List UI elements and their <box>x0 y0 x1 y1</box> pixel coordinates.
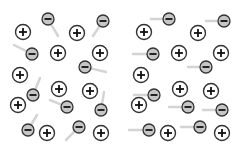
electron <box>42 13 54 25</box>
positive-ion <box>214 46 229 61</box>
electron <box>148 89 160 101</box>
positive-ion <box>83 84 98 99</box>
electron <box>97 15 109 27</box>
panel-random-motion <box>0 0 121 154</box>
positive-ion <box>172 46 187 61</box>
motion-arrow <box>93 27 99 36</box>
electron <box>200 61 212 73</box>
positive-ion <box>70 26 85 41</box>
electron <box>147 48 159 60</box>
electron <box>27 89 39 101</box>
positive-ion <box>161 126 176 141</box>
electron <box>194 121 206 133</box>
motion-arrow <box>66 132 74 140</box>
motion-arrow <box>102 92 104 103</box>
positive-ion <box>173 82 188 97</box>
positive-ion <box>11 98 26 113</box>
positive-ion <box>52 82 67 97</box>
electron <box>73 121 85 133</box>
positive-ion <box>16 25 31 40</box>
positive-ion <box>191 26 206 41</box>
random-motion-diagram <box>0 0 121 154</box>
positive-ion <box>40 126 55 141</box>
electron <box>26 48 38 60</box>
motion-arrow <box>52 25 58 36</box>
positive-ion <box>204 84 219 99</box>
electron <box>163 13 175 25</box>
motion-arrow <box>36 78 40 89</box>
positive-ion <box>51 46 66 61</box>
positive-ion <box>137 25 152 40</box>
motion-arrow <box>92 69 106 72</box>
positive-ion <box>13 68 28 83</box>
positive-ion <box>94 126 109 141</box>
drift-motion-diagram <box>121 0 243 154</box>
electron <box>216 104 228 116</box>
electron <box>22 124 34 136</box>
electron <box>79 61 91 73</box>
positive-ion <box>93 46 108 61</box>
electron <box>218 15 230 27</box>
electron <box>95 104 107 116</box>
positive-ion <box>134 68 149 83</box>
positive-ion <box>132 98 147 113</box>
motion-arrow <box>32 115 37 124</box>
motion-arrow <box>50 100 61 104</box>
motion-arrow <box>14 45 26 51</box>
positive-ion <box>215 126 230 141</box>
electron <box>143 124 155 136</box>
panel-drift-motion <box>121 0 242 154</box>
electron <box>61 101 73 113</box>
electron <box>182 101 194 113</box>
